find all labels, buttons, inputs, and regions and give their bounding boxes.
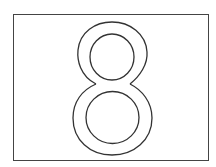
digit-eight-outline xyxy=(0,0,216,167)
